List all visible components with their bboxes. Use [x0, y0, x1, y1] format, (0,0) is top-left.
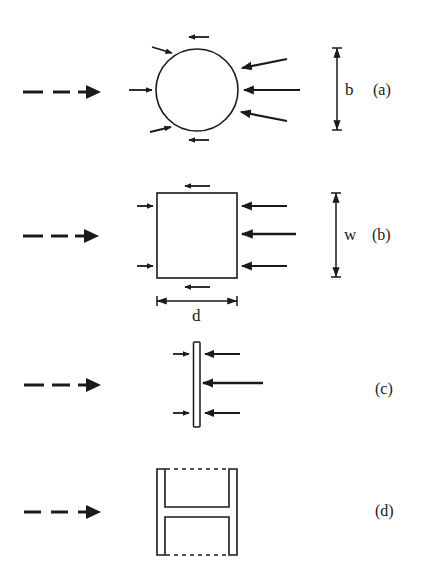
- dimension-label-d: d: [192, 306, 201, 325]
- dimension-w: [331, 193, 341, 277]
- wind-load-figure: b (a) d: [0, 0, 428, 575]
- dimension-label-b: b: [345, 80, 354, 99]
- pressure-arrows: [173, 354, 263, 413]
- dimension-d: [157, 296, 237, 306]
- panel-label-d: (d): [375, 502, 394, 520]
- dimension-b: [332, 48, 342, 130]
- pressure-arrow: [242, 59, 287, 68]
- square-section: [157, 193, 237, 278]
- panel-b: d w (b): [23, 186, 391, 325]
- incident-flow-arrow: [23, 85, 101, 99]
- flat-plate: [194, 342, 201, 427]
- panel-label-a: (a): [373, 81, 391, 99]
- incident-flow-arrow: [23, 229, 99, 243]
- panel-a: b (a): [23, 37, 391, 140]
- incident-flow-arrow: [24, 378, 101, 392]
- circular-section: [156, 49, 238, 131]
- dimension-label-w: w: [344, 225, 357, 244]
- incident-flow-arrow: [24, 505, 101, 519]
- panel-c: (c): [24, 342, 393, 427]
- panel-label-c: (c): [375, 380, 393, 398]
- pressure-arrows: [137, 186, 296, 287]
- h-section: [157, 469, 237, 555]
- panel-label-b: (b): [372, 226, 391, 244]
- panel-d: (d): [24, 469, 394, 555]
- pressure-arrow: [150, 127, 171, 132]
- pressure-arrow: [241, 112, 287, 121]
- pressure-arrow: [152, 47, 172, 53]
